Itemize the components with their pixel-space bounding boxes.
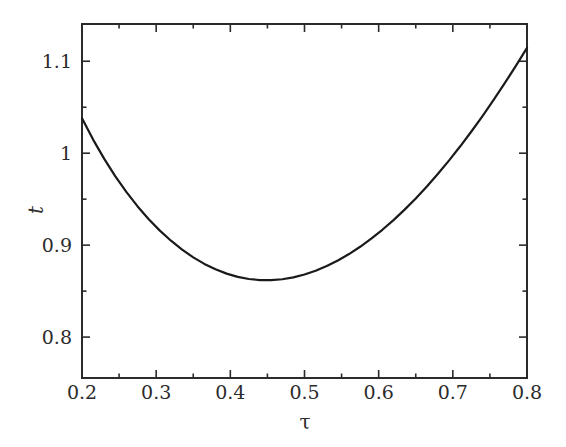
x-tick-label: 0.8 [512,383,542,402]
y-tick-label: 1 [60,144,72,163]
y-axis-title: t [26,206,46,214]
figure-background [0,0,566,447]
y-tick-label: 0.8 [42,328,72,347]
x-tick-label: 0.5 [289,383,319,402]
chart-figure: 0.20.30.40.50.60.70.8 0.80.911.1 τ t [0,0,566,447]
plot-area [0,0,566,447]
x-tick-label: 0.4 [215,383,245,402]
y-tick-label: 1.1 [42,52,72,71]
x-tick-label: 0.6 [364,383,394,402]
x-axis-title: τ [299,412,310,432]
x-tick-label: 0.2 [67,383,97,402]
y-tick-label: 0.9 [42,236,72,255]
x-tick-label: 0.7 [438,383,468,402]
x-tick-label: 0.3 [141,383,171,402]
